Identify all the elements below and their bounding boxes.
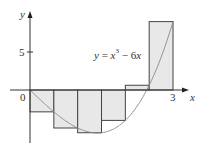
y-axis-arrow-icon [28,11,33,18]
x-tick-label-3: 3 [170,92,176,103]
riemann-sum-figure [0,0,210,154]
riemann-rectangle [54,90,78,128]
y-axis-label: y [20,9,25,20]
function-equation: y = x3 − 6x [94,49,141,61]
equation-x: x [111,49,116,61]
riemann-rectangle [78,90,102,133]
x-axis-label: x [190,92,195,103]
equation-rest: − 6 [119,49,136,61]
riemann-rectangle [125,85,149,90]
riemann-rectangles [30,22,173,133]
equation-exponent: 3 [116,47,120,55]
origin-label: 0 [20,92,26,103]
riemann-rectangle [102,90,126,120]
x-axis-arrow-icon [182,88,189,93]
equation-x2: x [136,49,141,61]
y-tick-label-5: 5 [19,47,25,58]
equation-equals: = [99,49,111,61]
